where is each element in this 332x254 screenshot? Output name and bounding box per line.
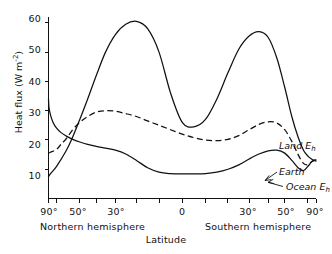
- x-tick-label-50s: 50°: [271, 206, 301, 217]
- series-label-earth-main: Earth: [279, 166, 304, 177]
- northern-hemisphere-label: Northern hemisphere: [40, 221, 145, 232]
- x-axis-label: Latitude: [0, 234, 332, 245]
- series-label-land-eh: Land Eh: [279, 140, 316, 151]
- curve-ocean-eh: [49, 99, 317, 174]
- x-tick-label-90s: 90°: [300, 206, 330, 217]
- y-axis-ticks: [45, 23, 49, 169]
- southern-hemisphere-label: Southern hemisphere: [205, 221, 311, 232]
- y-tick-label-60: 60: [19, 13, 41, 24]
- y-axis-label-close: ): [13, 51, 24, 55]
- y-tick-label-10: 10: [19, 170, 41, 181]
- y-axis-label-exponent: -2: [12, 55, 20, 62]
- series-label-ocean-main: Ocean E: [286, 181, 325, 192]
- x-tick-label-30n: 30°: [101, 206, 131, 217]
- x-tick-label-50n: 50°: [63, 206, 93, 217]
- curve-land-eh: [49, 21, 317, 176]
- curve-earth: [49, 111, 317, 165]
- x-axis-ticks: [49, 199, 317, 204]
- series-label-ocean-sub: h: [325, 186, 329, 194]
- x-tick-label-0: 0: [167, 206, 197, 217]
- x-tick-label-30s: 30°: [233, 206, 263, 217]
- series-label-earth: Earth: [279, 166, 304, 177]
- x-tick-label-90n: 90°: [34, 206, 64, 217]
- series-label-land-sub: h: [311, 145, 315, 153]
- series-label-ocean-eh: Ocean Eh: [286, 181, 330, 192]
- y-axis-label-main: Heat flux (W m: [13, 62, 24, 134]
- chart-figure: 60 50 40 30 20 10 Heat flux (W m-2) 90° …: [0, 0, 332, 254]
- y-axis-label: Heat flux (W m-2): [12, 40, 24, 144]
- series-label-land-main: Land E: [279, 140, 311, 151]
